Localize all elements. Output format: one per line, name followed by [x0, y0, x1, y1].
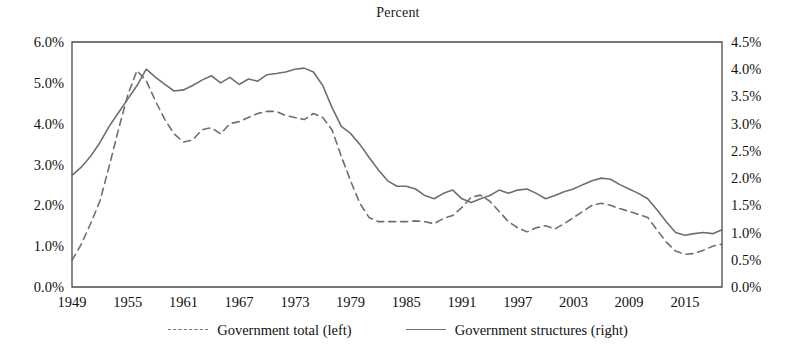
- x-axis-tick-label: 2009: [615, 294, 644, 311]
- legend-label: Government total (left): [217, 322, 351, 339]
- legend-swatch-dashed-icon: [168, 329, 208, 332]
- x-axis-tick-label: 1985: [392, 294, 421, 311]
- y-axis-right-tick-label: 1.5%: [731, 197, 791, 214]
- legend-swatch-solid-icon: [406, 329, 446, 332]
- x-axis-tick-label: 1955: [113, 294, 142, 311]
- y-axis-left-tick-label: 1.0%: [8, 238, 64, 255]
- y-axis-right-tick-label: 3.0%: [731, 115, 791, 132]
- x-axis-tick-label: 1973: [280, 294, 309, 311]
- y-axis-left-tick-label: 0.0%: [8, 279, 64, 296]
- plot-border: [72, 42, 722, 287]
- y-axis-left-tick-label: 4.0%: [8, 115, 64, 132]
- y-axis-right-tick-label: 4.5%: [731, 34, 791, 51]
- y-axis-right-tick-label: 3.5%: [731, 88, 791, 105]
- x-axis-tick-label: 1997: [503, 294, 532, 311]
- chart-figure: Percent 0.0%1.0%2.0%3.0%4.0%5.0%6.0% 0.0…: [0, 0, 796, 358]
- y-axis-right-tick-label: 4.0%: [731, 61, 791, 78]
- y-axis-right-tick-label: 2.0%: [731, 170, 791, 187]
- y-axis-left-tick-label: 6.0%: [8, 34, 64, 51]
- y-axis-left-tick-label: 5.0%: [8, 74, 64, 91]
- series-line-1: [72, 71, 722, 261]
- legend-entry-2: Government structures (right): [406, 322, 628, 339]
- x-axis-tick-label: 1949: [58, 294, 87, 311]
- y-axis-right-tick-label: 0.5%: [731, 251, 791, 268]
- x-axis-tick-label: 2015: [670, 294, 699, 311]
- x-axis-tick-label: 1961: [169, 294, 198, 311]
- legend-label: Government structures (right): [455, 322, 628, 339]
- series-layer: [72, 68, 722, 260]
- x-axis-tick-label: 1979: [336, 294, 365, 311]
- y-axis-left-tick-label: 3.0%: [8, 156, 64, 173]
- y-axis-right-tick-label: 2.5%: [731, 142, 791, 159]
- axis-frame: [72, 42, 722, 287]
- chart-legend: Government total (left)Government struct…: [0, 322, 796, 339]
- x-axis-tick-label: 1991: [448, 294, 477, 311]
- y-axis-right-tick-label: 0.0%: [731, 279, 791, 296]
- y-axis-left-tick-label: 2.0%: [8, 197, 64, 214]
- legend-entry-1: Government total (left): [168, 322, 351, 339]
- y-axis-right-tick-label: 1.0%: [731, 224, 791, 241]
- x-axis-tick-label: 2003: [559, 294, 588, 311]
- x-axis-tick-label: 1967: [225, 294, 254, 311]
